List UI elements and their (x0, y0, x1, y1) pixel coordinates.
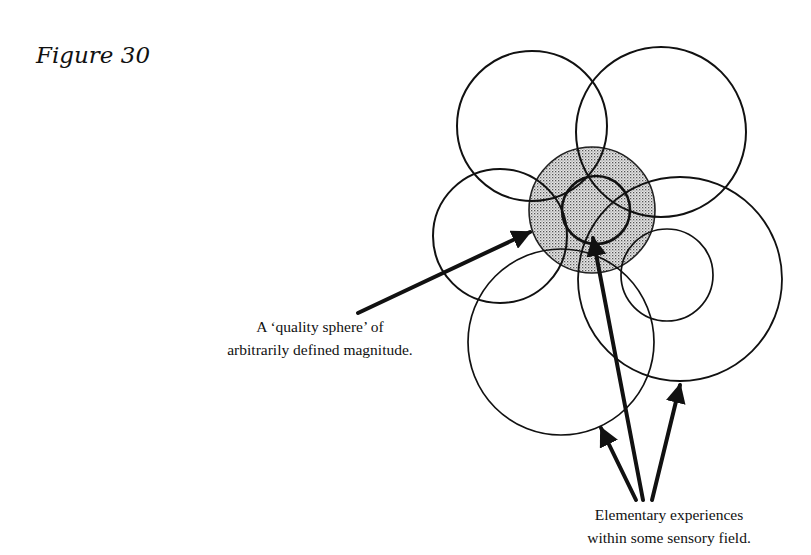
circle-top-right (576, 47, 746, 217)
circle-right-small (621, 229, 713, 321)
elementary-caption-line2: within some sensory field. (524, 526, 811, 549)
quality-sphere-caption-line2: arbitrarily defined magnitude. (180, 338, 460, 361)
quality-sphere-caption-line1: A ‘quality sphere’ of (180, 315, 460, 338)
arrows (358, 232, 680, 500)
quality-sphere-caption: A ‘quality sphere’ of arbitrarily define… (180, 315, 460, 361)
arrow-to-right-large-circle (652, 385, 680, 500)
elementary-experiences-caption: Elementary experiences within some senso… (524, 503, 811, 549)
arrow-to-quality-sphere (358, 232, 530, 313)
experience-circles (433, 47, 782, 435)
overlapping-circles-diagram (0, 0, 811, 555)
elementary-caption-line1: Elementary experiences (524, 503, 811, 526)
